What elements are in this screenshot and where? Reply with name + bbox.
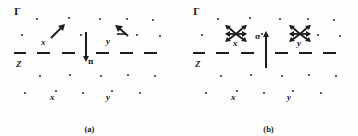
label-y-lower: y [287, 93, 291, 102]
lattice-dot [126, 18, 128, 20]
lattice-dot [68, 17, 70, 19]
lattice-dot [24, 92, 26, 94]
label-gamma: Γ [193, 8, 199, 17]
label-sigma: σ [255, 33, 261, 41]
single-arrow-up-right-icon [50, 24, 66, 40]
lattice-dot [55, 90, 57, 92]
lattice-dot [136, 34, 138, 36]
label-y-upper: y [106, 37, 110, 46]
label-zone-z: Z [16, 60, 22, 69]
panel-b: σ [179, 0, 358, 136]
label-y-lower: y [106, 93, 110, 102]
lattice-dot [308, 74, 310, 76]
panel-a-caption: (a) [0, 124, 179, 134]
lattice-dot [205, 92, 207, 94]
lattice-dot [333, 19, 335, 21]
lattice-dot [339, 35, 341, 37]
panel-b-caption: (b) [179, 124, 358, 134]
lattice-dot [82, 92, 84, 94]
dashed-midline-segment [299, 52, 312, 54]
dashed-midline-segment [96, 52, 109, 54]
label-x-lower: x [231, 93, 236, 102]
lattice-dot [36, 18, 38, 20]
zone-boundary-line [265, 36, 267, 68]
lattice-dot [159, 35, 161, 37]
dashed-midline-segment [62, 52, 75, 54]
lattice-dot [80, 34, 82, 36]
label-gamma: Γ [14, 8, 20, 17]
arrow-up-head-icon [263, 31, 269, 37]
lattice-dot [99, 18, 101, 20]
lattice-dot [249, 17, 251, 19]
single-arrow-up-left-icon [114, 23, 130, 39]
figure-container: x y Γ π Z x y (a) [0, 0, 358, 136]
lattice-dot [320, 92, 322, 94]
lattice-dot [263, 92, 265, 94]
lattice-dot [292, 90, 294, 92]
label-pi: π [88, 58, 94, 66]
lattice-dot [69, 74, 71, 76]
panel-a-plot-area: x y Γ π Z x y [14, 8, 166, 106]
dashed-midline-segment [323, 52, 336, 54]
dashed-midline-segment [193, 52, 205, 54]
dashed-midline-segment [241, 52, 254, 54]
lattice-dot [236, 90, 238, 92]
lattice-dot [100, 75, 102, 77]
dashed-midline-segment [37, 52, 50, 54]
lattice-dot [154, 75, 156, 77]
lattice-dot [111, 90, 113, 92]
lattice-dot [21, 34, 23, 36]
lattice-dot [335, 75, 337, 77]
label-y-upper: y [297, 39, 301, 48]
label-zone-z: Z [195, 60, 201, 69]
lattice-dot [317, 34, 319, 36]
lattice-dot [139, 92, 141, 94]
panel-b-plot-area: σ [193, 8, 345, 106]
lattice-dot [201, 34, 203, 36]
lattice-dot [281, 75, 283, 77]
lattice-dot [127, 74, 129, 76]
lattice-dot [250, 74, 252, 76]
dashed-midline-segment [275, 52, 288, 54]
lattice-dot [307, 18, 309, 20]
lattice-dot [39, 75, 41, 77]
label-x-lower: x [50, 93, 55, 102]
lattice-dot [220, 75, 222, 77]
label-x-upper: x [41, 38, 46, 47]
panel-a: x y Γ π Z x y (a) [0, 0, 179, 136]
dashed-midline-segment [14, 52, 26, 54]
dashed-midline-segment [144, 52, 157, 54]
dashed-midline-segment [216, 52, 229, 54]
lattice-dot [217, 18, 219, 20]
lattice-dot [279, 18, 281, 20]
dashed-midline-segment [120, 52, 133, 54]
zone-boundary-line [85, 32, 87, 58]
label-x-upper: x [233, 39, 238, 48]
lattice-dot [152, 19, 154, 21]
